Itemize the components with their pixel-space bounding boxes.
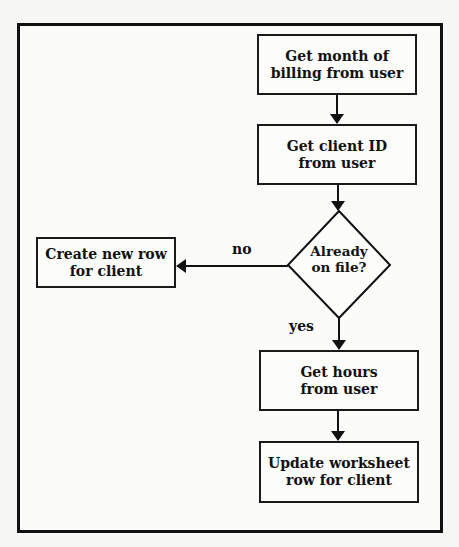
step-get-client-id: Get client ID from user bbox=[257, 124, 417, 185]
step-create-new-row: Create new row for client bbox=[36, 237, 176, 288]
edge-label-no: no bbox=[232, 241, 252, 257]
edge-label-yes: yes bbox=[289, 318, 314, 334]
decision-already-on-file: Already on file? bbox=[300, 243, 378, 275]
step-update-worksheet-row: Update worksheet row for client bbox=[259, 441, 419, 503]
step-get-hours: Get hours from user bbox=[259, 350, 419, 411]
step-get-month: Get month of billing from user bbox=[257, 34, 417, 95]
